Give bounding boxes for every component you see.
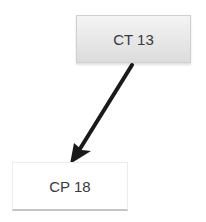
node-cp18[interactable]: CP 18 [12,162,128,211]
node-label: CP 18 [49,178,90,195]
node-label: CT 13 [113,31,154,48]
node-ct13[interactable]: CT 13 [76,15,191,63]
